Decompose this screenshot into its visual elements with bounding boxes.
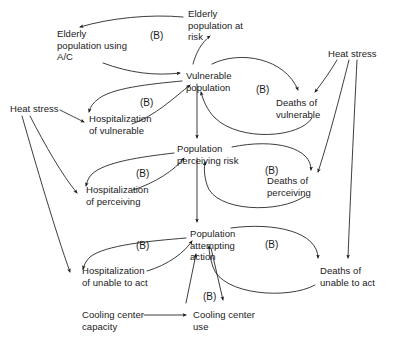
node-population-perceiving-risk: Population perceiving risk (177, 143, 269, 166)
node-cooling-center-use: Cooling center use (193, 309, 269, 332)
loop-label-b3: (B) (140, 97, 153, 108)
node-hospitalization-of-perceiving: Hospitalization of perceiving (86, 184, 170, 207)
node-heat-stress-right: Heat stress (328, 48, 394, 60)
node-vulnerable-population: Vulnerable population (186, 70, 258, 93)
loop-label-b6: (B) (136, 240, 149, 251)
edge-pop-perceiving-to-hosp-perceiving (86, 153, 174, 186)
edge-elderly-risk-to-elderly-ac (80, 16, 183, 27)
node-deaths-of-unable-to-act: Deaths of unable to act (320, 265, 394, 288)
edge-heat-left-to-hosp-perceiving (30, 116, 77, 193)
loop-label-b1: (B) (150, 30, 163, 41)
causal-loop-diagram: Elderly population using A/C Elderly pop… (0, 0, 394, 343)
edge-heat-left-to-hosp-unable (22, 116, 70, 272)
node-deaths-of-perceiving: Deaths of perceiving (267, 175, 335, 198)
node-population-attempting-action: Population attempting action (190, 228, 252, 263)
node-hospitalization-of-vulnerable: Hospitalization of vulnerable (89, 113, 171, 136)
loop-label-b7: (B) (265, 239, 278, 250)
node-heat-stress-left: Heat stress (10, 103, 76, 115)
node-cooling-center-capacity: Cooling center capacity (82, 309, 158, 332)
edge-elderly-ac-to-vulnerable (103, 63, 180, 74)
loop-label-b2: (B) (256, 84, 269, 95)
node-elderly-population-using-ac: Elderly population using A/C (57, 28, 143, 63)
node-elderly-population-at-risk: Elderly population at risk (188, 8, 266, 43)
edge-heat-right-to-deaths-unable (348, 60, 357, 258)
edge-heat-right-to-deaths-vulnerable (315, 60, 337, 92)
edge-vulnerable-to-hosp-vulnerable (89, 81, 182, 112)
loop-label-b8: (B) (203, 291, 216, 302)
node-deaths-of-vulnerable: Deaths of vulnerable (276, 97, 340, 120)
loop-label-b4: (B) (136, 168, 149, 179)
node-hospitalization-of-unable-to-act: Hospitalization of unable to act (82, 265, 174, 288)
loop-label-b5: (B) (265, 165, 278, 176)
